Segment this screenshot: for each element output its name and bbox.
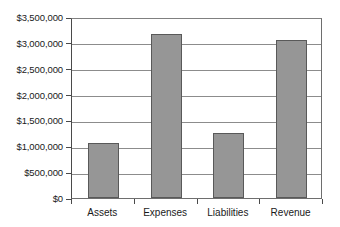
x-axis-category-label: Expenses xyxy=(134,207,197,219)
x-axis-tick xyxy=(259,199,260,204)
x-axis-category-label: Assets xyxy=(71,207,134,219)
x-axis-tick xyxy=(322,199,323,204)
y-axis-tick-label: $2,000,000 xyxy=(0,91,63,101)
x-axis-tick xyxy=(197,199,198,204)
bar-liabilities xyxy=(213,133,244,198)
bar-assets xyxy=(88,143,119,198)
x-axis-tick xyxy=(134,199,135,204)
y-axis-tick-label: $500,000 xyxy=(0,168,63,178)
bar-expenses xyxy=(151,34,182,198)
y-axis-tick-label: $1,500,000 xyxy=(0,116,63,126)
y-axis-tick-label: $1,000,000 xyxy=(0,142,63,152)
y-axis-tick-label: $2,500,000 xyxy=(0,65,63,75)
plot-area xyxy=(71,18,322,199)
y-axis-tick-label: $0 xyxy=(0,194,63,204)
y-axis-tick-label: $3,500,000 xyxy=(0,13,63,23)
y-axis-tick-label: $3,000,000 xyxy=(0,39,63,49)
bar-revenue xyxy=(276,40,307,198)
bar-chart: $0$500,000$1,000,000$1,500,000$2,000,000… xyxy=(0,0,340,227)
x-axis-category-label: Liabilities xyxy=(197,207,260,219)
x-axis-category-label: Revenue xyxy=(259,207,322,219)
x-axis-tick xyxy=(71,199,72,204)
